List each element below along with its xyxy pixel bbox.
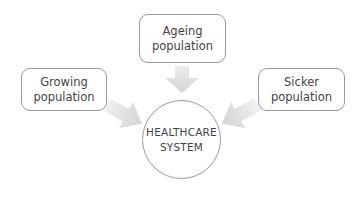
healthcare-system-circle: HEALTHCARE SYSTEM bbox=[142, 100, 221, 179]
center-label-line1: HEALTHCARE bbox=[146, 125, 217, 140]
center-label-line2: SYSTEM bbox=[160, 140, 203, 155]
growing-population-box: Growing population bbox=[21, 68, 107, 111]
growing-label-line1: Growing bbox=[40, 75, 88, 90]
growing-label-line2: population bbox=[33, 90, 94, 105]
sicker-population-box: Sicker population bbox=[258, 68, 345, 111]
sicker-label-line1: Sicker bbox=[284, 75, 319, 90]
ageing-population-box: Ageing population bbox=[139, 14, 226, 63]
ageing-label-line1: Ageing bbox=[162, 24, 202, 39]
ageing-label-line2: population bbox=[152, 39, 213, 54]
sicker-label-line2: population bbox=[271, 90, 332, 105]
arrow-down-icon bbox=[165, 66, 199, 93]
